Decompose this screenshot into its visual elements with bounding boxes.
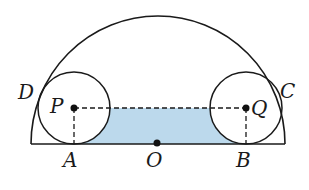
point-p bbox=[71, 105, 78, 112]
label-a: A bbox=[61, 148, 77, 172]
shaded-region bbox=[74, 108, 246, 144]
geometry-diagram: D P Q C A O B bbox=[0, 0, 309, 190]
point-q bbox=[243, 105, 250, 112]
label-p: P bbox=[49, 94, 64, 118]
label-q: Q bbox=[251, 96, 267, 120]
label-c: C bbox=[280, 79, 295, 103]
label-o: O bbox=[146, 148, 162, 172]
label-b: B bbox=[235, 148, 251, 172]
label-d: D bbox=[17, 80, 34, 104]
point-o bbox=[154, 140, 161, 147]
